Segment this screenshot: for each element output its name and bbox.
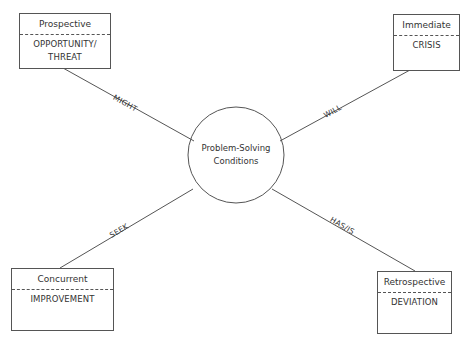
center-label-line1: Problem-Solving [186, 142, 286, 155]
node-body-line1: CRISIS [394, 39, 459, 52]
node-body-line1: IMPROVEMENT [12, 293, 113, 306]
node-body: IMPROVEMENT [12, 290, 113, 306]
node-concurrent: Concurrent IMPROVEMENT [11, 268, 114, 331]
node-body-line1: DEVIATION [378, 296, 451, 309]
node-prospective: Prospective OPPORTUNITY/ THREAT [19, 13, 111, 69]
center-node-label: Problem-Solving Conditions [186, 142, 286, 168]
node-body: DEVIATION [378, 293, 451, 309]
node-body: OPPORTUNITY/ THREAT [20, 35, 110, 64]
node-immediate: Immediate CRISIS [393, 14, 460, 71]
node-heading: Immediate [394, 15, 459, 36]
node-heading: Concurrent [12, 269, 113, 290]
node-body: CRISIS [394, 36, 459, 52]
edge-line-top-right [280, 70, 410, 141]
node-body-line2: THREAT [20, 51, 110, 64]
node-body-line1: OPPORTUNITY/ [20, 38, 110, 51]
center-label-line2: Conditions [186, 155, 286, 168]
node-retrospective: Retrospective DEVIATION [377, 271, 452, 334]
node-heading: Retrospective [378, 272, 451, 293]
node-heading: Prospective [20, 14, 110, 35]
